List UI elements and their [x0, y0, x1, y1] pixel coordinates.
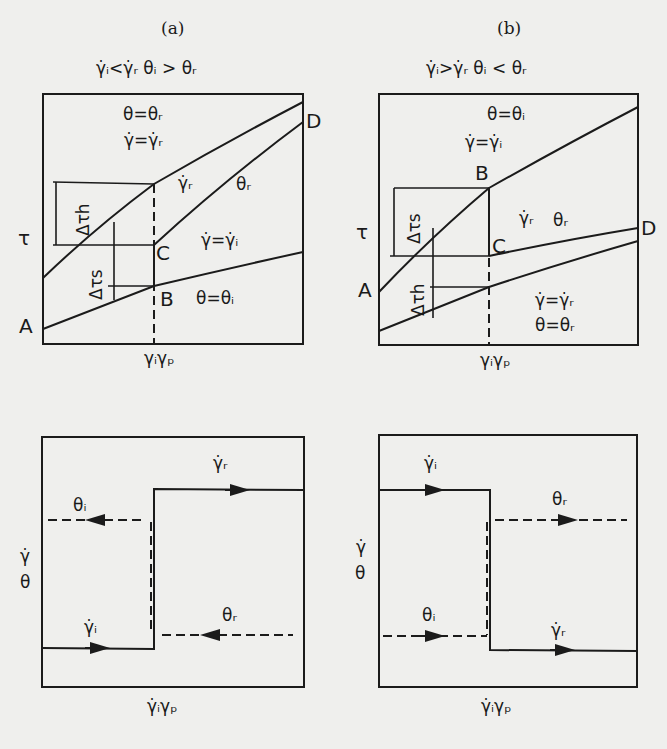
curve-theta-r [489, 228, 638, 256]
delta-tau-s: Δτs [406, 213, 423, 244]
figure-canvas: (a) γ̇ᵢ<γ̇ᵣ θᵢ > θᵣ θ=θᵣ γ̇=γ̇ᵣ γ̇ᵣ θᵣ γ… [0, 0, 667, 749]
step-label-gamma-r: γ̇ᵣ [551, 622, 565, 639]
curve-label-gamma-r: γ̇ᵣ [178, 175, 192, 192]
point-c: C [156, 243, 170, 263]
panel-a-tag: (a) [161, 20, 184, 37]
region-upper-theta: θ=θᵢ [487, 106, 525, 123]
step-label-theta-i: θᵢ [73, 497, 86, 514]
delta-h-top [53, 182, 154, 184]
curve-label-theta-r: θᵣ [236, 176, 251, 193]
curve-theta-i [379, 107, 638, 292]
figure-lines [0, 0, 667, 749]
y-axis-tau: τ [356, 222, 368, 242]
delta-tau-s: Δτs [88, 269, 105, 300]
region-upper-theta: θ=θᵣ [123, 106, 162, 123]
curve-label-theta-r: θᵣ [553, 212, 568, 229]
step-label-gamma-i: γ̇ᵢ [424, 455, 437, 472]
region-upper-gamma: γ̇=γ̇ᵣ [124, 132, 163, 149]
y-axis-gamma-dot: γ̇ [356, 539, 366, 556]
y-axis-gamma-dot: γ̇ [20, 548, 30, 565]
panel-b-tag: (b) [497, 20, 521, 37]
x-marker-gamma-dot-i-gamma-p: γ̇ᵢγₚ [147, 698, 177, 715]
x-marker-gamma-dot-i-gamma-p: γ̇ᵢγₚ [481, 698, 511, 715]
region-lower-theta-r: θ=θᵣ [535, 317, 574, 334]
panel-a-condition: γ̇ᵢ<γ̇ᵣ θᵢ > θᵣ [96, 60, 197, 77]
curve-gamma-r [43, 102, 303, 278]
x-marker-gamma-i-gamma-p: γᵢγₚ [480, 352, 510, 369]
point-a: A [19, 316, 33, 336]
point-b: B [475, 163, 489, 183]
step-label-theta-r: θᵣ [552, 491, 567, 508]
plot-frame [42, 437, 304, 687]
region-upper-gamma: γ̇=γ̇ᵢ [465, 134, 502, 151]
panel-b-bottom-chart [379, 435, 637, 687]
panel-b-condition: γ̇ᵢ>γ̇ᵣ θᵢ < θᵣ [426, 60, 527, 77]
curve-theta-r [154, 122, 303, 245]
delta-tau-h: Δτh [410, 283, 427, 316]
point-d: D [306, 111, 321, 131]
region-lower-theta-i: θ=θᵢ [196, 290, 234, 307]
step-label-theta-i: θᵢ [422, 607, 435, 624]
step-gamma-dot [379, 490, 637, 651]
step-label-gamma-i: γ̇ᵢ [84, 619, 97, 636]
point-b: B [160, 289, 174, 309]
region-mid-gamma-i: γ̇=γ̇ᵢ [201, 232, 238, 249]
y-axis-tau: τ [18, 228, 30, 248]
panel-a-bottom-chart [42, 437, 304, 687]
point-c: C [492, 236, 506, 256]
delta-tau-h: Δτh [75, 203, 92, 236]
x-marker-gamma-i-gamma-p: γᵢγₚ [144, 350, 174, 367]
curve-label-gamma-r: γ̇ᵣ [519, 210, 533, 227]
y-axis-theta: θ [355, 565, 365, 582]
step-label-theta-r: θᵣ [222, 607, 237, 624]
region-lower-gamma-r: γ̇=γ̇ᵣ [535, 292, 574, 309]
point-a: A [358, 280, 372, 300]
step-label-gamma-r: γ̇ᵣ [213, 455, 227, 472]
y-axis-theta: θ [20, 574, 30, 591]
point-d: D [641, 218, 656, 238]
